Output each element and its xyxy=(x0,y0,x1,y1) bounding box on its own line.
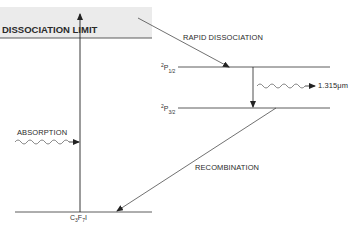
rapid-dissociation-label: RAPID DISSOCIATION xyxy=(183,33,263,42)
ground-state-label: C3F7I xyxy=(70,214,87,223)
recombination-label: RECOMBINATION xyxy=(195,163,259,172)
absorption-wave xyxy=(15,140,69,144)
ground-i: I xyxy=(85,214,87,221)
rapid-dissociation-arrow xyxy=(138,18,229,67)
dissociation-limit-label: DISSOCIATION LIMIT xyxy=(2,24,97,35)
absorption-label: ABSORPTION xyxy=(17,128,67,137)
upper-state-label: 2P1/2 xyxy=(161,62,175,74)
emission-wavelength-label: 1.315μm xyxy=(318,81,348,90)
recombination-arrow xyxy=(117,108,276,211)
upper-state-sub: 1/2 xyxy=(168,68,175,74)
lower-state-sub: 3/2 xyxy=(168,109,175,115)
lower-state-label: 2P3/2 xyxy=(161,103,175,115)
emission-wave xyxy=(257,84,305,88)
